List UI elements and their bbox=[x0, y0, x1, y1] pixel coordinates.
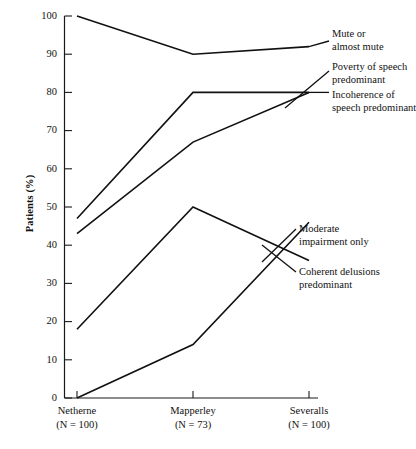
y-tick-label-50: 50 bbox=[31, 202, 57, 213]
series-label-mute-line1: Mute or bbox=[332, 27, 384, 40]
series-line-poverty-of-speech bbox=[77, 92, 309, 218]
series-label-poverty-of-speech: Poverty of speech predominant bbox=[332, 60, 407, 87]
x-tick-group-netherne: Netherne (N = 100) bbox=[22, 404, 132, 432]
y-tick-label-40: 40 bbox=[31, 240, 57, 251]
series-label-moderate-impairment-only: Moderate impairment only bbox=[299, 222, 369, 249]
series-label-coherent-delusions: Coherent delusions predominant bbox=[299, 265, 380, 292]
series-label-poverty-line1: Poverty of speech bbox=[332, 60, 407, 73]
leader-line-mute-or-almost-mute bbox=[309, 41, 329, 47]
series-label-incoherence-line1: Incoherence of bbox=[332, 88, 416, 101]
y-tick-marks bbox=[65, 16, 73, 398]
series-label-coherent-line1: Coherent delusions bbox=[299, 265, 380, 278]
series-label-poverty-line2: predominant bbox=[332, 73, 407, 86]
y-tick-label-10: 10 bbox=[31, 355, 57, 366]
x-tick-label-severalls-n: (N = 100) bbox=[254, 418, 364, 432]
x-tick-label-netherne-n: (N = 100) bbox=[22, 418, 132, 432]
series-line-moderate-impairment-only bbox=[77, 207, 309, 329]
y-tick-label-100: 100 bbox=[31, 11, 57, 22]
series-line-coherent-delusions bbox=[77, 222, 309, 398]
series-line-mute-or-almost-mute bbox=[77, 16, 309, 54]
x-tick-label-mapperley-n: (N = 73) bbox=[138, 418, 248, 432]
y-tick-label-20: 20 bbox=[31, 316, 57, 327]
series-line-incoherence-of-speech bbox=[77, 92, 309, 233]
series-label-moderate-line1: Moderate bbox=[299, 222, 369, 235]
series-label-mute-line2: almost mute bbox=[332, 40, 384, 53]
y-tick-label-80: 80 bbox=[31, 87, 57, 98]
y-tick-label-90: 90 bbox=[31, 49, 57, 60]
series-label-incoherence-of-speech: Incoherence of speech predominant bbox=[332, 88, 416, 115]
series-label-incoherence-line2: speech predominant bbox=[332, 101, 416, 114]
x-tick-label-mapperley-name: Mapperley bbox=[138, 404, 248, 418]
x-tick-group-mapperley: Mapperley (N = 73) bbox=[138, 404, 248, 432]
y-tick-label-30: 30 bbox=[31, 278, 57, 289]
y-axis-title: Patients (%) bbox=[24, 149, 35, 259]
x-tick-group-severalls: Severalls (N = 100) bbox=[254, 404, 364, 432]
leader-line-coherent-delusions bbox=[262, 245, 296, 272]
y-tick-label-0: 0 bbox=[31, 393, 57, 404]
leader-line-poverty-of-speech bbox=[285, 71, 329, 108]
series-label-moderate-line2: impairment only bbox=[299, 235, 369, 248]
leader-line-moderate-impairment-only bbox=[262, 229, 296, 262]
y-tick-label-70: 70 bbox=[31, 125, 57, 136]
x-tick-label-netherne-name: Netherne bbox=[22, 404, 132, 418]
y-tick-label-60: 60 bbox=[31, 164, 57, 175]
series-label-mute-or-almost-mute: Mute or almost mute bbox=[332, 27, 384, 54]
series-label-coherent-line2: predominant bbox=[299, 278, 380, 291]
x-tick-label-severalls-name: Severalls bbox=[254, 404, 364, 418]
x-tick-marks bbox=[77, 391, 309, 398]
